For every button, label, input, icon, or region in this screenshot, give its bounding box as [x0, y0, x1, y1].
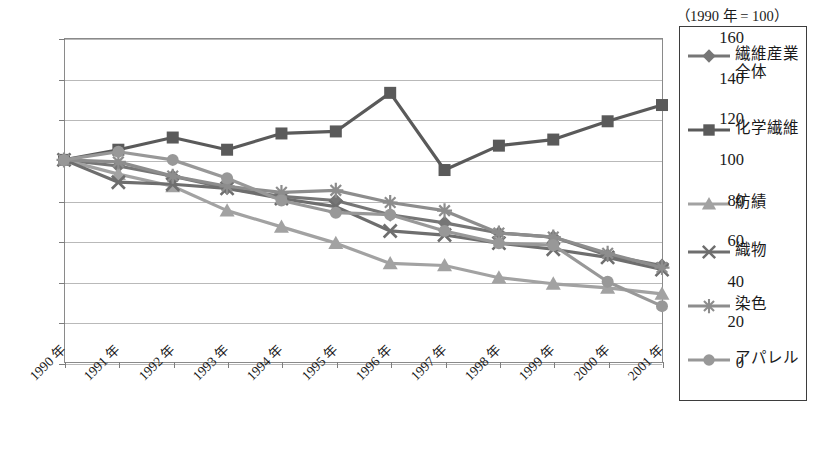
x-axis-tick — [228, 362, 229, 368]
x-axis-tick — [609, 362, 610, 368]
x-axis-tick — [119, 362, 120, 368]
x-axis-tick — [282, 362, 283, 368]
y-axis-tick — [59, 323, 65, 324]
y-axis-label: 40 — [698, 274, 744, 291]
gridline — [65, 80, 662, 81]
chart-root: （1990 年 = 100） 繊維産業全体化学繊維紡績織物染色アパレル 0204… — [0, 0, 814, 455]
legend-label: 繊維産業全体 — [735, 45, 803, 82]
y-axis-tick — [59, 202, 65, 203]
x-axis-tick — [337, 362, 338, 368]
plot-area — [64, 38, 663, 363]
y-axis-tick — [59, 283, 65, 284]
y-axis-tick — [59, 161, 65, 162]
y-axis-tick — [59, 39, 65, 40]
x-axis-tick — [391, 362, 392, 368]
y-axis-label: 100 — [698, 152, 744, 169]
legend-label: アパレル — [735, 349, 803, 367]
gridline — [65, 161, 662, 162]
x-axis-tick — [554, 362, 555, 368]
legend-label: 染色 — [735, 295, 803, 313]
y-axis-label: 160 — [698, 30, 744, 47]
gridline — [65, 202, 662, 203]
x-axis-tick — [663, 362, 664, 368]
y-axis-label: 20 — [698, 314, 744, 331]
x-axis-tick — [500, 362, 501, 368]
gridline — [65, 242, 662, 243]
legend-note: （1990 年 = 100） — [676, 4, 788, 25]
legend-swatch-diamond-icon — [686, 45, 732, 67]
y-axis-tick — [59, 120, 65, 121]
y-axis-label: 120 — [698, 111, 744, 128]
legend-label: 紡績 — [735, 193, 803, 211]
x-axis-tick — [65, 362, 66, 368]
y-axis-tick — [59, 80, 65, 81]
gridline — [65, 323, 662, 324]
legend-label: 織物 — [735, 241, 803, 259]
y-axis-label: 60 — [698, 233, 744, 250]
gridline — [65, 283, 662, 284]
x-axis-tick — [446, 362, 447, 368]
y-axis-tick — [59, 242, 65, 243]
legend-label: 化学繊維 — [735, 119, 803, 137]
y-axis-label: 0 — [698, 355, 744, 372]
marker-diamond — [702, 49, 715, 62]
x-axis-tick — [174, 362, 175, 368]
gridline — [65, 120, 662, 121]
y-axis-label: 140 — [698, 71, 744, 88]
marker-star — [702, 299, 716, 313]
x-axis-label: 1990 年 — [24, 339, 69, 384]
gridline — [65, 39, 662, 40]
y-axis-label: 80 — [698, 193, 744, 210]
